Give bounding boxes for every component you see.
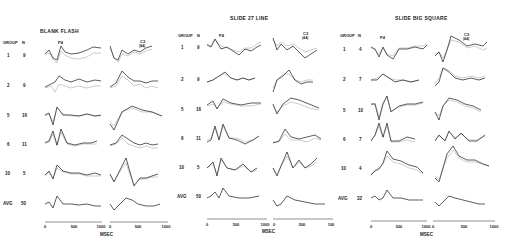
- x-tick: 1000: [422, 224, 431, 229]
- x-tick: 0: [370, 224, 372, 229]
- x-tick: 500: [396, 224, 403, 229]
- erp-waveforms: [335, 0, 505, 245]
- erp-waveforms: [165, 0, 335, 245]
- x-axis-label: MSEC: [420, 232, 433, 237]
- x-axis-label: MSEC: [262, 229, 275, 234]
- x-tick: 0: [273, 222, 275, 227]
- x-tick: 500: [461, 224, 468, 229]
- x-tick: 500: [299, 222, 306, 227]
- panel-slide-27-line: SLIDE 27 LINE GROUP N P4 C3 (AA) 1 9 2 9…: [165, 0, 335, 245]
- panel-slide-big-square: SLIDE BIG SQUARE GROUP N P4 C3 (AA) 1 4 …: [335, 0, 505, 245]
- x-tick: 100: [328, 222, 335, 227]
- panel-blank-flash: BLANK FLASH GROUP N P4 C3 (AA) 1 9 2 9 5…: [0, 0, 170, 245]
- erp-waveforms: [0, 0, 170, 245]
- x-tick: 500: [135, 224, 142, 229]
- x-tick: 1000: [490, 224, 499, 229]
- x-tick: 500: [233, 222, 240, 227]
- x-tick: 1000: [261, 222, 270, 227]
- x-tick: 0: [109, 224, 111, 229]
- x-axis-label: MSEC: [100, 232, 113, 237]
- x-tick: 0: [44, 224, 46, 229]
- x-tick: 500: [71, 224, 78, 229]
- x-tick: 0: [432, 224, 434, 229]
- x-tick: 0: [206, 222, 208, 227]
- x-tick: 1000: [97, 224, 106, 229]
